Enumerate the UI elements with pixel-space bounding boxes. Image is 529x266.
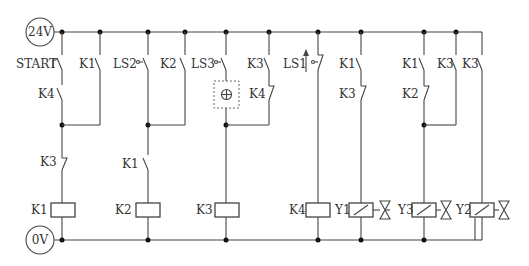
ls1-limit-switch-actuated: LS1 xyxy=(283,49,323,72)
y3-solenoid-valve: Y3 xyxy=(397,201,451,219)
svg-text:K1: K1 xyxy=(122,157,139,171)
rung-2: LS2 K2 K1 K2 xyxy=(113,30,188,243)
svg-text:K1: K1 xyxy=(31,203,48,217)
k1-no-contact-y3: K1 xyxy=(402,57,424,71)
svg-text:LS1: LS1 xyxy=(283,57,307,71)
k1-no-contact-y1: K1 xyxy=(339,57,361,71)
start-pushbutton-contact: START xyxy=(16,57,62,71)
svg-text:K2: K2 xyxy=(402,87,419,101)
y2-solenoid-valve: Y2 xyxy=(455,201,509,219)
k4-no-contact: K4 xyxy=(38,87,62,101)
svg-text:START: START xyxy=(16,57,57,71)
rung-1: START K4 K1 K3 K1 xyxy=(16,30,103,243)
k2-nc-contact-y3: K2 xyxy=(402,86,429,101)
rung-7: K3 Y2 xyxy=(455,32,509,240)
svg-text:Y2: Y2 xyxy=(455,203,472,217)
svg-text:K4: K4 xyxy=(289,203,306,217)
k2-relay-coil: K2 xyxy=(115,203,160,217)
ladder-diagram: 24V 0V START K4 K1 xyxy=(0,0,529,266)
svg-text:K3: K3 xyxy=(40,155,57,169)
k4-relay-coil: K4 xyxy=(289,203,330,217)
svg-text:K1: K1 xyxy=(339,57,356,71)
k3-hold-contact: K3 xyxy=(247,57,269,71)
k3-relay-coil: K3 xyxy=(196,203,239,217)
svg-text:K2: K2 xyxy=(160,57,177,71)
svg-text:24V: 24V xyxy=(28,25,52,39)
svg-text:K3: K3 xyxy=(462,57,479,71)
k1-no-contact: K1 xyxy=(122,157,148,171)
timer-box-icon xyxy=(214,81,239,108)
supply-0v-terminal: 0V xyxy=(26,226,54,254)
svg-text:LS2: LS2 xyxy=(113,57,137,71)
svg-text:Y1: Y1 xyxy=(334,203,351,217)
y1-solenoid-valve: Y1 xyxy=(334,201,390,219)
svg-text:K1: K1 xyxy=(402,57,419,71)
ls2-limit-switch: LS2 xyxy=(113,57,148,71)
svg-text:K1: K1 xyxy=(79,57,96,71)
k3-no-contact-y3: K3 xyxy=(437,57,456,71)
svg-text:K3: K3 xyxy=(247,57,264,71)
svg-text:K3: K3 xyxy=(196,203,213,217)
svg-text:K4: K4 xyxy=(38,87,55,101)
k3-nc-contact: K3 xyxy=(40,155,67,170)
svg-text:K3: K3 xyxy=(437,57,454,71)
k3-no-contact-y2: K3 xyxy=(462,57,482,71)
rung-4: LS1 K4 xyxy=(283,30,330,243)
k4-nc-contact: K4 xyxy=(249,86,274,101)
k1-hold-contact: K1 xyxy=(79,57,100,71)
svg-text:K3: K3 xyxy=(339,87,356,101)
k3-nc-contact-y1: K3 xyxy=(339,86,366,101)
k1-relay-coil: K1 xyxy=(31,203,75,217)
supply-24v-terminal: 24V xyxy=(26,18,54,46)
svg-text:LS3: LS3 xyxy=(191,57,215,71)
svg-text:K4: K4 xyxy=(249,87,266,101)
rung-6: K1 K2 K3 Y3 xyxy=(397,30,459,243)
rung-3: LS3 K3 K4 K3 xyxy=(191,30,274,243)
svg-text:0V: 0V xyxy=(32,233,49,247)
rung-5: K1 K3 Y1 xyxy=(334,30,390,243)
svg-text:K2: K2 xyxy=(115,203,132,217)
ls3-limit-switch: LS3 xyxy=(191,57,226,71)
svg-text:Y3: Y3 xyxy=(397,203,414,217)
k2-hold-contact: K2 xyxy=(160,57,185,71)
